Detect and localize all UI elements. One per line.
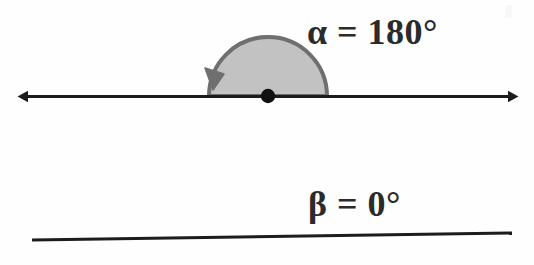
- vertex-dot: [261, 89, 275, 103]
- diagram-canvas: [0, 0, 534, 265]
- scan-artifact-speck: [505, 5, 512, 18]
- beta-angle-label: β = 0°: [308, 186, 401, 222]
- lower-straight-line: [32, 233, 512, 240]
- geometry-figure: α = 180° β = 0°: [0, 0, 534, 265]
- alpha-angle-label: α = 180°: [307, 14, 438, 50]
